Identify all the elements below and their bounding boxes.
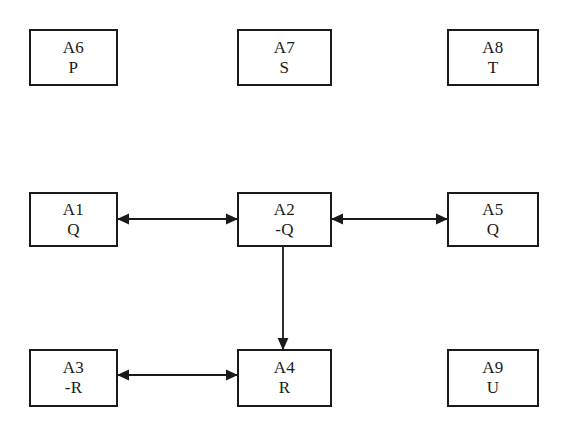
- node-a6-proposition: P: [69, 57, 79, 78]
- node-a3-id: A3: [63, 358, 84, 377]
- node-a5-proposition: Q: [487, 219, 500, 240]
- node-a1-id: A1: [63, 200, 84, 219]
- node-a8-proposition: T: [488, 57, 499, 78]
- node-a6-id: A6: [63, 38, 84, 57]
- node-a3-proposition: -R: [65, 377, 83, 398]
- node-a3[interactable]: A3 -R: [29, 349, 118, 407]
- node-a6[interactable]: A6 P: [29, 29, 118, 86]
- node-a9[interactable]: A9 U: [447, 349, 539, 407]
- node-a7-proposition: S: [280, 57, 290, 78]
- node-a9-id: A9: [482, 358, 503, 377]
- node-a7-id: A7: [274, 38, 295, 57]
- node-a4[interactable]: A4 R: [237, 349, 332, 407]
- node-a1-proposition: Q: [67, 219, 80, 240]
- diagram-canvas: A6 P A7 S A8 T A1 Q A2 -Q A5 Q A3 -R A4 …: [0, 0, 569, 448]
- node-a2-proposition: -Q: [275, 219, 294, 240]
- node-a5-id: A5: [482, 200, 503, 219]
- node-a2[interactable]: A2 -Q: [237, 192, 332, 247]
- node-a7[interactable]: A7 S: [237, 29, 332, 86]
- node-a4-id: A4: [274, 358, 295, 377]
- node-a5[interactable]: A5 Q: [447, 192, 539, 247]
- node-a9-proposition: U: [487, 377, 500, 398]
- node-a4-proposition: R: [279, 377, 291, 398]
- node-a2-id: A2: [274, 200, 295, 219]
- node-a1[interactable]: A1 Q: [29, 192, 118, 247]
- node-a8-id: A8: [482, 38, 503, 57]
- node-a8[interactable]: A8 T: [447, 29, 539, 86]
